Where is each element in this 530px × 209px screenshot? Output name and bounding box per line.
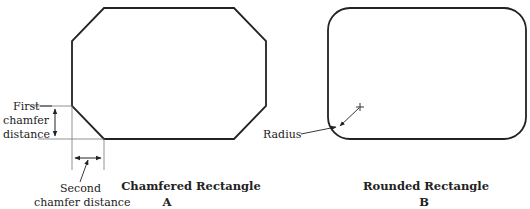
- caption-b: Rounded Rectangle: [363, 179, 489, 193]
- second-chamfer-label-line1: Second: [60, 182, 101, 195]
- rounded-rectangle: [328, 8, 526, 139]
- radius-label: Radius: [263, 128, 302, 141]
- chamfered-rectangle: [72, 8, 266, 139]
- letter-b: B: [419, 195, 429, 209]
- caption-a: Chamfered Rectangle: [121, 179, 261, 193]
- first-chamfer-label-line2: chamfer: [3, 114, 50, 127]
- letter-a: A: [162, 195, 173, 209]
- second-chamfer-leader: [80, 160, 88, 182]
- radius-dimension: [340, 108, 359, 126]
- radius-leader: [301, 127, 336, 134]
- second-chamfer-label-line2: chamfer distance: [34, 196, 131, 209]
- first-chamfer-label-line3: distance: [3, 128, 50, 141]
- first-chamfer-label-line1: First: [13, 100, 40, 113]
- diagram-canvas: First chamfer distance Second chamfer di…: [0, 0, 530, 209]
